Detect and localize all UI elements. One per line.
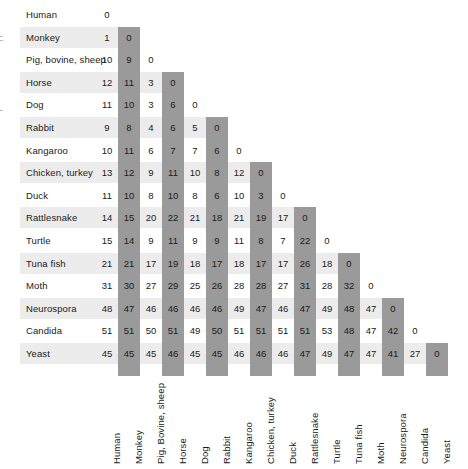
matrix-cell: 21 [96, 258, 118, 269]
edge-marker-top [0, 36, 3, 37]
matrix-cell: 46 [140, 303, 162, 314]
matrix-cell: 0 [360, 280, 382, 291]
matrix-cell: 11 [96, 190, 118, 201]
matrix-cell: 22 [294, 235, 316, 246]
matrix-cell: 6 [140, 145, 162, 156]
matrix-cell: 26 [294, 258, 316, 269]
matrix-cell: 49 [184, 325, 206, 336]
matrix-cell: 51 [162, 325, 184, 336]
matrix-cell: 18 [228, 258, 250, 269]
matrix-cell: 18 [184, 258, 206, 269]
matrix-cell: 11 [228, 235, 250, 246]
matrix-cell: 8 [250, 235, 272, 246]
matrix-cell: 49 [228, 303, 250, 314]
matrix-cell: 9 [140, 235, 162, 246]
column-label-tuna-fish: Tuna fish [353, 424, 364, 464]
matrix-cell: 17 [250, 258, 272, 269]
edge-marker-mid [0, 40, 3, 41]
matrix-cell: 31 [96, 280, 118, 291]
matrix-cell: 10 [228, 190, 250, 201]
column-label-rabbit: Rabbit [221, 436, 232, 464]
matrix-cell: 47 [360, 303, 382, 314]
matrix-cell: 47 [360, 348, 382, 359]
matrix-cell: 9 [140, 167, 162, 178]
matrix-cell: 41 [382, 348, 404, 359]
matrix-cell: 14 [118, 235, 140, 246]
matrix-cell: 0 [228, 145, 250, 156]
matrix-cell: 45 [184, 348, 206, 359]
matrix-cell: 18 [206, 212, 228, 223]
matrix-cell: 19 [250, 212, 272, 223]
matrix-cell: 6 [206, 145, 228, 156]
matrix-cell: 17 [272, 258, 294, 269]
matrix-cell: 46 [184, 303, 206, 314]
matrix-cell: 3 [140, 99, 162, 110]
matrix-cell: 11 [162, 167, 184, 178]
matrix-cell: 51 [294, 325, 316, 336]
matrix-cell: 10 [184, 167, 206, 178]
matrix-cell: 26 [206, 280, 228, 291]
column-label-human: Human [111, 433, 122, 464]
column-label-chicken-turkey: Chicken, turkey [265, 397, 276, 464]
matrix-cell: 6 [206, 190, 228, 201]
matrix-cell: 22 [162, 212, 184, 223]
matrix-cell: 27 [404, 348, 426, 359]
matrix-cell: 21 [118, 258, 140, 269]
matrix-cell: 15 [118, 212, 140, 223]
column-label-horse: Horse [177, 438, 188, 464]
matrix-cell: 45 [96, 348, 118, 359]
matrix-cell: 11 [118, 145, 140, 156]
matrix-cell: 9 [118, 54, 140, 65]
column-label-neurospora: Neurospora [397, 413, 408, 464]
matrix-cell: 47 [250, 303, 272, 314]
matrix-cell: 12 [228, 167, 250, 178]
column-label-moth: Moth [375, 442, 386, 464]
column-label-pig-bovine-sheep: Pig, Bovine, sheep [155, 383, 166, 464]
matrix-cell: 11 [96, 99, 118, 110]
matrix-cell: 0 [206, 122, 228, 133]
matrix-cell: 11 [118, 77, 140, 88]
matrix-cell: 27 [140, 280, 162, 291]
matrix-cell: 17 [140, 258, 162, 269]
matrix-cell: 9 [206, 235, 228, 246]
matrix-cell: 0 [250, 167, 272, 178]
matrix-cell: 48 [338, 325, 360, 336]
matrix-cell: 12 [96, 77, 118, 88]
matrix-cell: 8 [118, 122, 140, 133]
matrix-cell: 47 [294, 303, 316, 314]
matrix-cell: 7 [162, 145, 184, 156]
column-label-rattlesnake: Rattlesnake [309, 413, 320, 464]
matrix-cell: 6 [162, 122, 184, 133]
matrix-cell: 46 [206, 303, 228, 314]
matrix-cell: 21 [184, 212, 206, 223]
matrix-cell: 46 [272, 348, 294, 359]
matrix-cell: 8 [206, 167, 228, 178]
matrix-cell: 0 [162, 77, 184, 88]
matrix-cell: 20 [140, 212, 162, 223]
matrix-cell: 47 [360, 325, 382, 336]
matrix-cell: 15 [96, 235, 118, 246]
matrix-cell: 53 [316, 325, 338, 336]
matrix-cell: 19 [162, 258, 184, 269]
matrix-cell: 10 [96, 54, 118, 65]
matrix-cell: 42 [382, 325, 404, 336]
matrix-cell: 28 [228, 280, 250, 291]
column-label-turtle: Turtle [331, 439, 342, 464]
matrix-cell: 6 [162, 99, 184, 110]
matrix-cell: 12 [118, 167, 140, 178]
edge-marker-low [0, 110, 3, 111]
matrix-cell: 0 [96, 9, 118, 20]
matrix-cell: 9 [184, 235, 206, 246]
matrix-cell: 11 [162, 235, 184, 246]
matrix-cell: 14 [96, 212, 118, 223]
matrix-cell: 45 [206, 348, 228, 359]
matrix-cell: 48 [338, 303, 360, 314]
matrix-cell: 46 [162, 303, 184, 314]
matrix-cell: 28 [316, 280, 338, 291]
matrix-cell: 0 [294, 212, 316, 223]
matrix-cell: 51 [250, 325, 272, 336]
column-label-candida: Candida [419, 428, 430, 464]
matrix-cell: 50 [206, 325, 228, 336]
matrix-cell: 47 [118, 303, 140, 314]
matrix-cell: 46 [228, 348, 250, 359]
